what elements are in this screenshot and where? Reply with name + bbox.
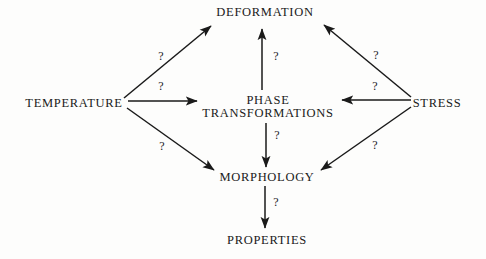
node-morphology: MORPHOLOGY	[219, 171, 314, 184]
edge-label-temperature-phase-transformations: ?	[158, 80, 163, 92]
edge-label-stress-deformation: ?	[373, 49, 378, 61]
edge-label-stress-phase-transformations: ?	[372, 80, 377, 92]
node-temperature: TEMPERATURE	[25, 97, 122, 110]
arrow-temperature-to-deformation	[124, 26, 211, 98]
diagram-arrows-layer	[0, 0, 486, 259]
edge-label-temperature-deformation: ?	[158, 50, 163, 62]
edge-label-phase-transformations-morphology: ?	[274, 129, 279, 141]
edge-label-stress-morphology: ?	[372, 139, 377, 151]
node-deformation: DEFORMATION	[216, 6, 313, 19]
relationship-diagram: DEFORMATION TEMPERATURE STRESS PHASE TRA…	[0, 0, 486, 259]
arrow-temperature-to-morphology	[127, 108, 214, 170]
arrow-stress-to-deformation	[324, 25, 411, 97]
arrow-stress-to-morphology	[321, 107, 411, 170]
node-phase-transformations-line-2: TRANSFORMATIONS	[202, 107, 333, 120]
edge-label-morphology-properties: ?	[273, 196, 278, 208]
node-stress: STRESS	[413, 97, 462, 110]
node-properties: PROPERTIES	[227, 234, 307, 247]
edge-label-phase-transformations-deformation: ?	[273, 50, 278, 62]
edge-label-temperature-morphology: ?	[159, 140, 164, 152]
